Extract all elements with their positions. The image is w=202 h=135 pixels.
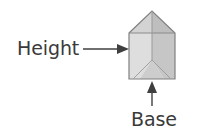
base-arrow bbox=[147, 81, 157, 106]
height-label: Height bbox=[17, 39, 79, 58]
triangular-prism-shape bbox=[129, 11, 175, 79]
height-arrowhead bbox=[117, 44, 129, 54]
base-label: Base bbox=[131, 110, 177, 129]
height-arrow bbox=[83, 44, 129, 54]
geometry-figure: Height Base bbox=[0, 0, 202, 135]
base-arrowhead bbox=[147, 81, 157, 93]
